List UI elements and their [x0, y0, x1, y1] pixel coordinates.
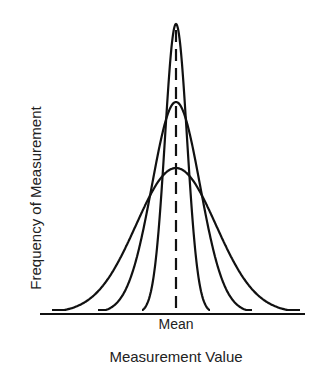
y-axis-label: Frequency of Measurement	[27, 106, 44, 289]
x-axis-label: Measurement Value	[109, 348, 242, 365]
x-tick-mean: Mean	[158, 316, 193, 332]
